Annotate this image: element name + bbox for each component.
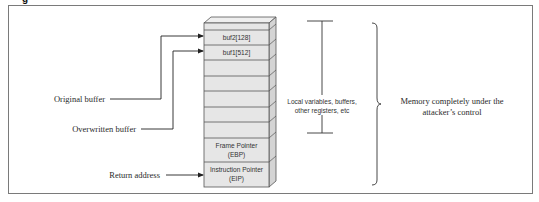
stack-cell-instruction-pointer-line1: Instruction Pointer	[210, 166, 264, 173]
original-buffer-label: Original buffer	[54, 94, 105, 104]
local-variables-range-bracket	[307, 21, 333, 133]
stack-cell-buf2: buf2[128]	[223, 34, 251, 42]
attacker-control-label-line1: Memory completely under the	[400, 96, 503, 106]
stack-column: buf2[128] buf1[512] Frame Pointer (EBP) …	[204, 17, 276, 187]
original-buffer-callout: Original buffer	[54, 36, 203, 104]
curly-brace-icon	[372, 23, 381, 185]
return-address-label: Return address	[109, 170, 160, 180]
stack-top-face	[204, 17, 276, 23]
figure-heading-fragment: g	[22, 0, 28, 4]
overwritten-buffer-arrow	[141, 51, 203, 129]
overwritten-buffer-label: Overwritten buffer	[72, 124, 136, 134]
local-variables-label-line2: other registers, etc	[295, 107, 350, 115]
stack-cell-instruction-pointer-line2: (EIP)	[229, 175, 244, 183]
return-address-callout: Return address	[109, 170, 203, 180]
local-variables-label-line1: Local variables, buffers,	[287, 98, 357, 105]
original-buffer-arrow	[110, 36, 203, 99]
stack-cell-frame-pointer-line2: (EBP)	[228, 151, 246, 159]
attacker-control-label-line2: attacker’s control	[422, 107, 482, 117]
stack-cell-buf1: buf1[512]	[223, 49, 251, 57]
stack-cell-frame-pointer-line1: Frame Pointer	[216, 142, 259, 149]
stack-buffer-overflow-diagram: g	[0, 0, 539, 202]
overwritten-buffer-callout: Overwritten buffer	[72, 51, 203, 134]
